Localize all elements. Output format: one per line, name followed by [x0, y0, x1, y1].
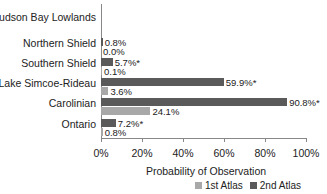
bar-2nd-atlas [101, 119, 116, 127]
category-label: Carolinian [49, 97, 96, 109]
data-label: 59.9%* [226, 78, 257, 87]
x-tick-label: 0% [93, 147, 108, 159]
bar-2nd-atlas [101, 58, 113, 66]
bar-2nd-atlas [101, 78, 224, 86]
x-tick [142, 138, 143, 142]
bar-2nd-atlas [101, 38, 103, 46]
data-label: 0.8% [105, 128, 127, 137]
bar-1st-atlas [101, 67, 102, 75]
x-axis-title: Probability of Observation [0, 165, 327, 177]
x-tick [306, 138, 307, 142]
data-label: 0.1% [104, 67, 126, 76]
legend-swatch-2nd-atlas [250, 182, 257, 189]
category-label: Hudson Bay Lowlands [0, 11, 96, 23]
bar-1st-atlas [101, 107, 150, 115]
x-tick [183, 138, 184, 142]
x-tick-label: 60% [213, 147, 234, 159]
x-tick [224, 138, 225, 142]
category-label: Ontario [62, 118, 96, 130]
x-tick-label: 100% [293, 147, 320, 159]
x-tick-label: 20% [131, 147, 152, 159]
category-label: Northern Shield [23, 37, 96, 49]
legend: 1st Atlas 2nd Atlas [195, 180, 301, 191]
bar-2nd-atlas [101, 98, 287, 106]
legend-swatch-1st-atlas [195, 182, 202, 189]
x-tick [265, 138, 266, 142]
data-label: 90.8%* [289, 98, 320, 107]
category-label: Southern Shield [21, 57, 96, 69]
data-label: 3.6% [110, 87, 132, 96]
legend-label-1st-atlas: 1st Atlas [205, 180, 243, 191]
bar-1st-atlas [101, 128, 103, 136]
legend-label-2nd-atlas: 2nd Atlas [260, 180, 301, 191]
data-label: 0.0% [103, 47, 125, 56]
bar-1st-atlas [101, 87, 108, 95]
category-label: Lake Simcoe-Rideau [0, 77, 96, 89]
data-label: 24.1% [152, 107, 179, 116]
x-tick-label: 40% [172, 147, 193, 159]
x-axis-line [101, 138, 307, 139]
x-tick [101, 138, 102, 142]
x-tick-label: 80% [254, 147, 275, 159]
